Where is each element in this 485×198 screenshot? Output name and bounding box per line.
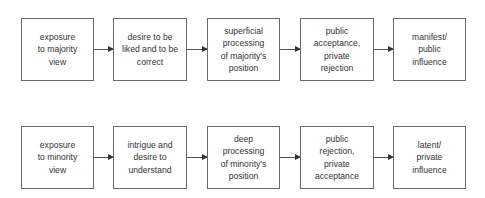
arrow-icon [280, 157, 300, 158]
box-label: deep processing of minority's position [221, 133, 267, 183]
majority-box-influence: manifest/ public influence [393, 18, 466, 81]
arrow-icon [187, 49, 207, 50]
box-label: exposure to majority view [38, 31, 78, 69]
box-label: desire to be liked and to be correct [122, 31, 178, 69]
arrow-icon [94, 157, 113, 158]
box-label: superficial processing of majority's pos… [221, 25, 267, 75]
box-label: exposure to minority view [38, 139, 78, 177]
arrow-icon [187, 157, 207, 158]
arrow-icon [94, 49, 113, 50]
minority-box-exposure: exposure to minority view [21, 126, 94, 189]
majority-box-processing: superficial processing of majority's pos… [207, 18, 280, 81]
minority-box-intrigue: intrigue and desire to understand [113, 126, 187, 189]
arrow-icon [374, 157, 393, 158]
majority-box-exposure: exposure to majority view [21, 18, 94, 81]
box-label: latent/ private influence [412, 139, 446, 177]
arrow-icon [374, 49, 393, 50]
majority-box-desire: desire to be liked and to be correct [113, 18, 187, 81]
box-label: public acceptance, private rejection [314, 25, 360, 75]
minority-box-influence: latent/ private influence [393, 126, 466, 189]
box-label: intrigue and desire to understand [128, 139, 173, 177]
majority-box-acceptance: public acceptance, private rejection [300, 18, 374, 81]
arrow-icon [280, 49, 300, 50]
minority-box-rejection: public rejection, private acceptance [300, 126, 374, 189]
minority-box-processing: deep processing of minority's position [207, 126, 280, 189]
box-label: public rejection, private acceptance [315, 133, 359, 183]
box-label: manifest/ public influence [412, 31, 447, 69]
